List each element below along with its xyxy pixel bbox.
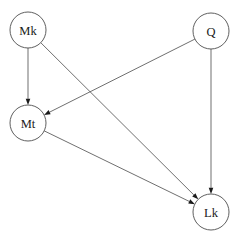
edge-arrowhead	[209, 188, 214, 194]
node-q[interactable]: Q	[193, 13, 229, 49]
edge-mk-to-lk	[41, 43, 198, 200]
node-mk[interactable]: Mk	[10, 12, 46, 48]
node-circle[interactable]	[10, 105, 46, 141]
edge-line	[41, 43, 194, 195]
edge-line	[50, 39, 195, 112]
node-lk[interactable]: Lk	[193, 194, 229, 230]
edge-line	[44, 131, 189, 202]
node-mt[interactable]: Mt	[10, 105, 46, 141]
edge-q-to-lk	[209, 49, 214, 194]
edge-mt-to-lk	[44, 131, 195, 204]
graph-canvas: MkQMtLk	[0, 0, 239, 241]
edge-q-to-mt	[44, 39, 195, 115]
edge-mk-to-mt	[26, 48, 31, 105]
edge-arrowhead	[44, 110, 51, 115]
edges-layer	[26, 39, 214, 204]
node-circle[interactable]	[193, 13, 229, 49]
edge-arrowhead	[188, 199, 195, 204]
node-circle[interactable]	[193, 194, 229, 230]
node-circle[interactable]	[10, 12, 46, 48]
edge-arrowhead	[26, 99, 31, 105]
